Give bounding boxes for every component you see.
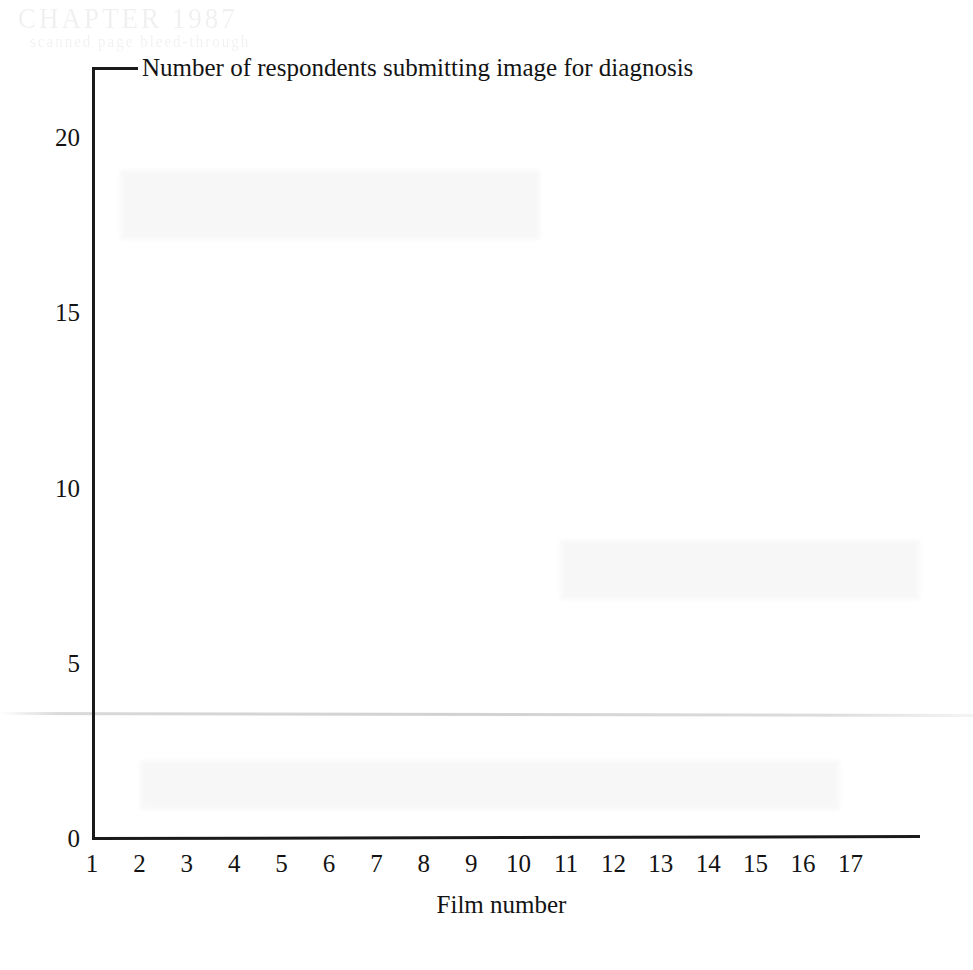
x-tick-label: 15	[736, 850, 776, 878]
y-tick-label: 20	[20, 125, 80, 150]
x-tick-label: 9	[451, 850, 491, 878]
x-tick-label: 2	[119, 850, 159, 878]
x-tick-label: 14	[688, 850, 728, 878]
x-tick-label: 11	[546, 850, 586, 878]
y-tick-label: 10	[20, 476, 80, 501]
y-tick-label: 5	[20, 651, 80, 676]
x-tick-label: 1	[72, 850, 112, 878]
x-tick-label: 8	[404, 850, 444, 878]
figure-canvas: CHAPTER 1987 scanned page bleed-through …	[0, 0, 973, 970]
x-tick-label: 4	[214, 850, 254, 878]
y-axis-tick-labels: 05101520	[12, 0, 80, 970]
x-axis-title: Film number	[0, 891, 973, 919]
x-tick-label: 13	[641, 850, 681, 878]
x-tick-label: 6	[309, 850, 349, 878]
x-tick-label: 16	[783, 850, 823, 878]
x-tick-label: 17	[830, 850, 870, 878]
x-tick-label: 3	[167, 850, 207, 878]
y-tick-label: 0	[20, 826, 80, 851]
x-tick-label: 10	[499, 850, 539, 878]
plot-area	[95, 67, 920, 838]
x-tick-label: 5	[262, 850, 302, 878]
x-tick-label: 12	[593, 850, 633, 878]
y-tick-label: 15	[20, 300, 80, 325]
x-tick-label: 7	[356, 850, 396, 878]
